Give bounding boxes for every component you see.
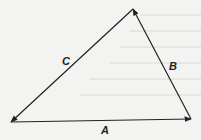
label-a: A — [100, 124, 109, 136]
vector-a — [11, 119, 191, 122]
label-b: B — [169, 60, 177, 72]
vector-b — [133, 9, 191, 119]
vector-c — [11, 9, 133, 122]
vector-triangle-diagram: A B C — [0, 0, 201, 140]
label-c: C — [62, 55, 71, 67]
